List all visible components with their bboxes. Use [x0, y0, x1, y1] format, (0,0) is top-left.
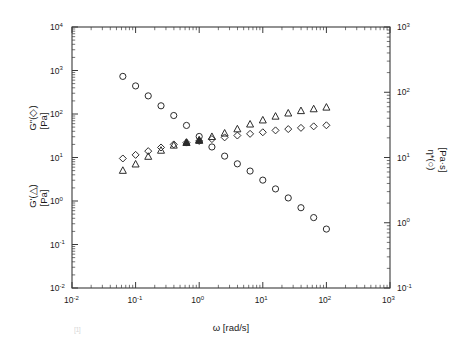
data-point-triangle	[259, 116, 266, 123]
data-point-diamond	[247, 130, 254, 137]
yl-tick-label: 103	[50, 65, 63, 76]
data-point-circle	[260, 177, 266, 183]
yr-tick-label: 103	[397, 22, 410, 33]
data-point-diamond	[297, 124, 304, 131]
x-tick-label: 102	[318, 295, 331, 306]
data-point-circle	[311, 214, 317, 220]
data-point-diamond	[285, 126, 292, 133]
yr-axis-title: η*(○)	[426, 149, 437, 170]
data-point-circle	[234, 161, 240, 167]
data-point-diamond	[132, 151, 139, 158]
data-point-circle	[145, 93, 151, 99]
data-point-triangle	[145, 153, 152, 160]
data-point-circle	[222, 153, 228, 159]
data-point-circle	[133, 83, 139, 89]
data-point-triangle	[297, 107, 304, 114]
yl-tick-label: 101	[50, 152, 63, 163]
x-tick-label: 103	[382, 295, 395, 306]
data-point-triangle	[247, 120, 254, 127]
data-point-triangle	[234, 125, 241, 132]
yl-axis-title-lower: G'(△)	[27, 184, 38, 208]
data-point-circle	[209, 144, 215, 150]
data-point-circle	[298, 205, 304, 211]
yl-axis-title-upper-unit: [Pa]	[38, 113, 49, 130]
data-point-diamond	[119, 155, 126, 162]
yl-axis-title-upper: G"(◇)	[27, 105, 38, 130]
data-point-circle	[247, 168, 253, 174]
data-point-diamond	[323, 122, 330, 129]
caption-artifact: [1]	[74, 326, 100, 335]
data-point-circle	[183, 122, 189, 128]
data-point-circle	[323, 226, 329, 232]
data-point-triangle	[158, 147, 165, 154]
x-tick-label: 101	[255, 295, 268, 306]
data-point-diamond	[272, 127, 279, 134]
data-point-diamond	[310, 123, 317, 130]
data-point-triangle	[132, 160, 139, 167]
yr-tick-label: 102	[397, 87, 410, 98]
data-point-triangle	[221, 130, 228, 137]
yr-tick-label: 101	[397, 152, 410, 163]
x-tick-label: 10-2	[64, 295, 79, 306]
rheology-figure: 10-210-110010110210310-210-1100101102103…	[0, 0, 456, 343]
yl-tick-label: 10-2	[50, 283, 65, 294]
data-point-diamond	[234, 132, 241, 139]
yr-tick-label: 10-1	[397, 283, 412, 294]
data-point-triangle	[323, 104, 330, 111]
yl-axis-title-lower-unit: [Pa]	[38, 190, 49, 207]
x-axis-title: ω [rad/s]	[213, 322, 249, 333]
x-tick-label: 100	[191, 295, 204, 306]
data-point-triangle	[272, 113, 279, 120]
data-point-diamond	[259, 129, 266, 136]
yl-tick-label: 10-1	[50, 239, 65, 250]
yl-tick-label: 104	[50, 22, 63, 33]
data-point-circle	[285, 195, 291, 201]
plot-canvas: 10-210-110010110210310-210-1100101102103…	[0, 0, 456, 343]
yl-tick-label: 100	[50, 196, 63, 207]
data-point-triangle	[285, 109, 292, 116]
data-point-circle	[272, 186, 278, 192]
x-tick-label: 10-1	[128, 295, 143, 306]
data-point-circle	[158, 103, 164, 109]
data-point-triangle	[119, 167, 126, 174]
yr-axis-title-unit: [Pa·s]	[438, 148, 449, 173]
data-point-circle	[171, 112, 177, 118]
data-point-circle	[120, 73, 126, 79]
yr-tick-label: 100	[397, 217, 410, 228]
data-point-triangle	[310, 105, 317, 112]
yl-tick-label: 102	[50, 109, 63, 120]
